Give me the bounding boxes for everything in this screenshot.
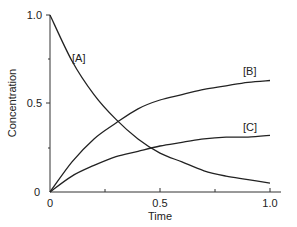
concentration-time-chart: 1.0 0.5 0 0 0.5 1.0 Time Concentration […: [0, 0, 297, 227]
y-tick-label-top: 1.0: [27, 9, 42, 21]
curve-b: [50, 81, 270, 193]
y-tick-label-mid: 0.5: [27, 97, 42, 109]
x-axis-title: Time: [148, 210, 172, 222]
y-tick-label-zero: 0: [34, 186, 40, 198]
curve-a: [50, 15, 270, 183]
x-tick-label-zero: 0: [47, 197, 53, 209]
y-axis-title: Concentration: [6, 69, 18, 138]
x-tick-label-end: 1.0: [262, 197, 277, 209]
curve-b-label: [B]: [243, 65, 256, 77]
x-tick-label-mid: 0.5: [152, 197, 167, 209]
curve-c-label: [C]: [243, 121, 257, 133]
curve-a-label: [A]: [72, 52, 85, 64]
curve-c: [50, 135, 270, 192]
